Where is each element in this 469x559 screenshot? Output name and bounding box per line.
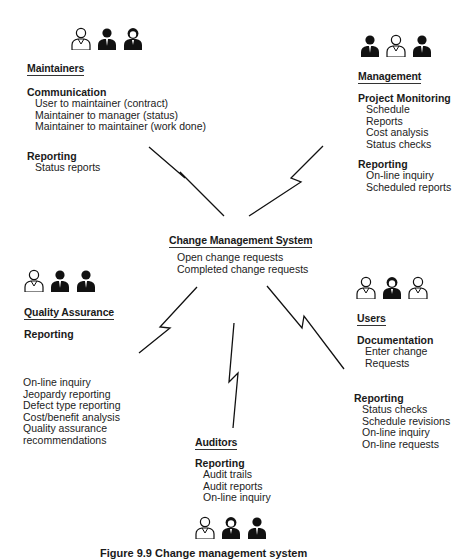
person-icon xyxy=(381,275,403,299)
list-item: recommendations xyxy=(23,435,120,447)
list-item: On-line inquiry xyxy=(23,377,120,389)
person-icon xyxy=(194,515,216,539)
list-item: Quality assurance xyxy=(23,423,120,435)
auditors-title: Auditors xyxy=(195,436,237,450)
qa-reporting-heading: Reporting xyxy=(24,328,114,340)
person-icon xyxy=(246,515,268,539)
person-icon xyxy=(359,33,381,57)
list-item: Completed change requests xyxy=(169,264,312,276)
management-title: Management xyxy=(358,70,421,84)
bolt-users xyxy=(267,286,344,369)
person-icon xyxy=(70,26,92,50)
list-item: Open change requests xyxy=(169,252,312,264)
bolt-qa xyxy=(139,287,197,353)
users-reporting: Reporting Status checks Schedule revisio… xyxy=(354,392,450,450)
qa-node xyxy=(23,268,97,292)
list-item: Defect type reporting xyxy=(23,400,120,412)
maintainers-node xyxy=(28,26,144,50)
maintainers-reporting: Reporting Status reports xyxy=(27,150,100,174)
center-title: Change Management System xyxy=(169,234,312,248)
maintainers-title: Maintainers xyxy=(27,62,84,76)
auditors-panel: Auditors Reporting Audit trails Audit re… xyxy=(195,432,271,504)
person-icon xyxy=(75,268,97,292)
person-icon xyxy=(122,26,144,50)
users-panel: Users Documentation Enter change Request… xyxy=(357,308,433,369)
list-item: Requests xyxy=(357,358,433,370)
list-item: Audit trails xyxy=(195,469,271,481)
list-item: Status reports xyxy=(27,162,100,174)
bolt-auditors xyxy=(229,323,238,428)
list-item: Status checks xyxy=(354,404,450,416)
person-icon xyxy=(49,268,71,292)
person-icon xyxy=(355,275,377,299)
list-item: Schedule xyxy=(358,104,451,116)
person-icon xyxy=(220,515,242,539)
users-node xyxy=(355,275,429,299)
maintainers-panel: Maintainers Communication User to mainta… xyxy=(27,58,206,133)
management-node xyxy=(359,33,433,57)
bolt-management xyxy=(249,146,323,216)
management-panel: Management Project Monitoring Schedule R… xyxy=(358,66,451,193)
list-item: On-line inquiry xyxy=(358,170,451,182)
list-item: Cost analysis xyxy=(358,127,451,139)
auditors-people xyxy=(194,515,268,539)
qa-panel: Quality Assurance Reporting xyxy=(24,302,114,340)
person-icon xyxy=(411,33,433,57)
bolt-maintainers xyxy=(149,147,224,216)
list-item: On-line inquiry xyxy=(195,492,271,504)
person-icon xyxy=(96,26,118,50)
list-item: Maintainer to maintainer (work done) xyxy=(27,121,206,133)
figure-caption: Figure 9.9 Change management system xyxy=(100,547,307,559)
list-item: On-line inquiry xyxy=(354,427,450,439)
list-item: Enter change xyxy=(357,346,433,358)
qa-items: On-line inquiry Jeopardy reporting Defec… xyxy=(23,377,120,446)
person-icon xyxy=(23,268,45,292)
users-people xyxy=(355,275,429,299)
qa-people xyxy=(23,268,97,292)
qa-title: Quality Assurance xyxy=(24,306,114,320)
maintainers-people xyxy=(70,26,144,50)
person-icon xyxy=(385,33,407,57)
person-icon xyxy=(407,275,429,299)
list-item: On-line requests xyxy=(354,439,450,451)
auditors-node xyxy=(194,515,268,539)
list-item: Status checks xyxy=(358,139,451,151)
center-node: Change Management System Open change req… xyxy=(169,230,312,275)
list-item: Scheduled reports xyxy=(358,182,451,194)
list-item: User to maintainer (contract) xyxy=(27,98,206,110)
users-title: Users xyxy=(357,312,386,326)
management-people xyxy=(359,33,433,57)
